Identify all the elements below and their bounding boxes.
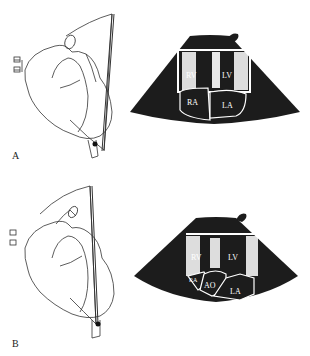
- label-ra-a: RA: [187, 98, 198, 107]
- echo-sector-a: RV LV RA LA AS: [130, 34, 300, 135]
- echo-sector-b: RV LV RA AO LA: [134, 214, 298, 302]
- transducer-dot-b: [96, 322, 101, 327]
- label-lv-a: LV: [222, 71, 232, 80]
- label-lv-b: LV: [228, 253, 238, 262]
- label-rv-b: RV: [191, 253, 202, 262]
- label-as-a: AS: [203, 125, 213, 134]
- transducer-dot-a: [93, 142, 98, 147]
- label-ra-b: RA: [189, 277, 198, 283]
- panel-b: RV LV RA AO LA B: [0, 178, 310, 356]
- label-rv-a: RV: [186, 71, 197, 80]
- heart-illustration-b: [10, 186, 114, 338]
- panel-b-drawing: RV LV RA AO LA: [0, 178, 310, 356]
- panel-label-a: A: [12, 150, 19, 161]
- panel-a-drawing: RV LV RA LA AS: [0, 0, 310, 178]
- panel-a: RV LV RA LA AS A: [0, 0, 310, 178]
- label-ao-b: AO: [204, 281, 216, 290]
- panel-label-b: B: [12, 338, 19, 349]
- heart-illustration-a: [14, 14, 114, 158]
- label-la-a: LA: [222, 101, 233, 110]
- label-la-b: LA: [230, 287, 241, 296]
